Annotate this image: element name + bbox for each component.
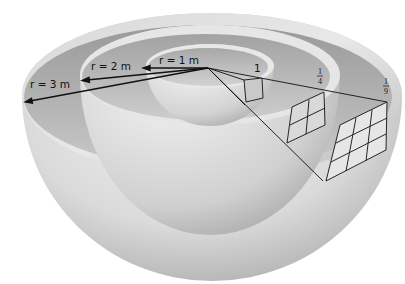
radius-label-r1: r = 1 m: [159, 54, 199, 66]
radius-label-r2: r = 2 m: [91, 60, 131, 72]
svg-text:4: 4: [318, 77, 322, 86]
svg-text:1: 1: [318, 67, 322, 76]
radius-label-r3: r = 3 m: [30, 78, 70, 90]
area-patch-1: [244, 78, 263, 102]
svg-text:9: 9: [384, 87, 388, 96]
area-label-1: 1: [254, 62, 261, 74]
inverse-square-diagram: r = 1 m r = 2 m r = 3 m 1 1 4 1 9: [0, 0, 405, 284]
svg-text:1: 1: [384, 77, 388, 86]
